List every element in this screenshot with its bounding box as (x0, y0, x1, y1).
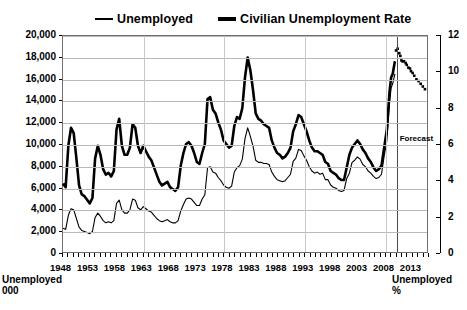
chart-legend: Unemployed Civilian Unemployment Rate (0, 12, 467, 32)
y-axis-right-tick-label: 10 (448, 65, 459, 76)
y-axis-left-tick-label: 0 (0, 247, 56, 258)
x-axis-tick (288, 253, 289, 257)
forecast-point (419, 83, 422, 86)
x-axis-ticks (62, 253, 428, 258)
legend-label-unemployed: Unemployed (117, 12, 193, 26)
x-axis-tick (73, 253, 74, 257)
x-axis-tick (127, 253, 128, 257)
x-axis-tick (175, 253, 176, 257)
gridline-horizontal (63, 80, 427, 81)
forecast-point (399, 55, 402, 58)
x-axis-tick (423, 253, 424, 257)
y-axis-right-tick (436, 253, 440, 254)
x-axis-tick-label: 1948 (50, 262, 71, 273)
x-axis-tick (267, 253, 268, 257)
y-axis-left-tick-label: 12,000 (0, 116, 56, 127)
x-axis-tick-label: 1973 (185, 262, 206, 273)
x-axis-tick (137, 253, 138, 257)
x-axis-tick-label: 1953 (77, 262, 98, 273)
x-axis-tick (132, 253, 133, 257)
forecast-label: Forecast (400, 134, 433, 143)
gridline-horizontal (63, 101, 427, 102)
y-axis-left-tick-label: 4,000 (0, 203, 56, 214)
x-axis-tick (353, 253, 354, 257)
gridline-vertical (144, 36, 145, 252)
forecast-point (413, 74, 416, 77)
y-axis-right-tick-label: 8 (448, 102, 454, 113)
x-axis-tick (148, 253, 149, 257)
x-axis-tick (315, 253, 316, 257)
x-axis-tick (240, 253, 241, 257)
x-axis-tick (363, 253, 364, 257)
y-axis-left-tick-label: 14,000 (0, 94, 56, 105)
gridline-vertical (224, 36, 225, 252)
legend-item-rate: Civilian Unemployment Rate (218, 12, 411, 26)
x-axis-tick (223, 253, 224, 257)
x-axis-tick-label: 1963 (131, 262, 152, 273)
x-axis-tick (347, 253, 348, 257)
x-axis-tick (250, 253, 251, 257)
x-axis-tick (385, 253, 386, 257)
x-axis-tick (256, 253, 257, 257)
y-axis-right-tick-label: 6 (448, 138, 454, 149)
x-axis-tick (197, 253, 198, 257)
x-axis-tick (272, 253, 273, 257)
gridline-horizontal (63, 232, 427, 233)
gridline-vertical (386, 36, 387, 252)
x-axis-tick (154, 253, 155, 257)
x-axis-tick (207, 253, 208, 257)
x-axis-tick (78, 253, 79, 257)
x-axis-tick (299, 253, 300, 257)
x-axis-tick-label: 1983 (238, 262, 259, 273)
x-axis-tick (229, 253, 230, 257)
x-axis-tick (342, 253, 343, 257)
x-axis-tick (401, 253, 402, 257)
x-axis-tick (374, 253, 375, 257)
x-axis-tick (406, 253, 407, 257)
x-axis-tick (191, 253, 192, 257)
legend-label-rate: Civilian Unemployment Rate (240, 12, 411, 26)
gridline-horizontal (63, 58, 427, 59)
x-axis-tick (310, 253, 311, 257)
x-axis-tick-label: 2008 (373, 262, 394, 273)
x-axis-tick (186, 253, 187, 257)
x-axis-tick (121, 253, 122, 257)
y-axis-left-tick-label: 16,000 (0, 73, 56, 84)
y-axis-right-tick-label: 12 (448, 29, 459, 40)
x-axis-tick (84, 253, 85, 257)
x-axis-tick (234, 253, 235, 257)
x-axis-tick-label: 1978 (211, 262, 232, 273)
x-axis-tick (283, 253, 284, 257)
y-axis-right-tick-label: 0 (448, 247, 454, 258)
gridline-horizontal (63, 145, 427, 146)
plot-area: Forecast (62, 35, 428, 253)
x-axis-tick (218, 253, 219, 257)
x-axis-tick (105, 253, 106, 257)
gridline-horizontal (63, 189, 427, 190)
forecast-point (424, 88, 427, 91)
x-axis-tick (159, 253, 160, 257)
x-axis-tick (358, 253, 359, 257)
x-axis-tick (89, 253, 90, 257)
x-axis-tick-label: 2013 (400, 262, 421, 273)
gridline-horizontal (63, 36, 427, 37)
y-axis-left-tick-label: 18,000 (0, 51, 56, 62)
x-axis-tick (293, 253, 294, 257)
axis-title-left: Unemployed 000 (2, 274, 62, 296)
x-axis-tick-label: 1968 (158, 262, 179, 273)
x-axis-tick (417, 253, 418, 257)
forecast-point (405, 64, 408, 67)
x-axis-tick (320, 253, 321, 257)
x-axis-tick-label: 1988 (265, 262, 286, 273)
gridline-horizontal (63, 210, 427, 211)
x-axis-tick (428, 253, 429, 257)
gridline-horizontal (63, 123, 427, 124)
x-axis-tick (331, 253, 332, 257)
x-axis-tick (337, 253, 338, 257)
x-axis-tick-label: 1958 (104, 262, 125, 273)
legend-line-thin-icon (95, 18, 113, 20)
chart-root: Unemployed Civilian Unemployment Rate 02… (0, 0, 467, 310)
x-axis-tick (143, 253, 144, 257)
x-axis-tick-label: 1998 (319, 262, 340, 273)
forecast-point (422, 85, 425, 88)
